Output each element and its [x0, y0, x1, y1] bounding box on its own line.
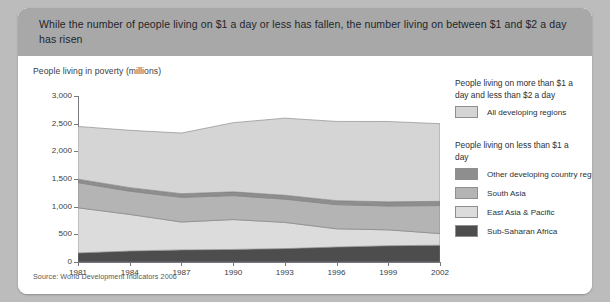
legend-label: Other developing country regions [487, 170, 592, 179]
legend-group-2-title: People living on less than $1 a day [455, 140, 583, 163]
legend-item-south-asia: South Asia [455, 187, 583, 199]
y-tick-label: 3,000 [30, 91, 72, 100]
legend-label: East Asia & Pacific [487, 208, 554, 217]
x-tick [130, 262, 131, 266]
plot-area: 05001,0001,5002,0002,5003,000 1981198419… [30, 82, 450, 272]
x-tick [337, 262, 338, 266]
x-tick [285, 262, 286, 266]
x-axis-line [78, 262, 441, 263]
source-note: Source: World Development Indicators 200… [33, 272, 177, 281]
x-tick-label: 1993 [276, 268, 294, 277]
x-tick [78, 262, 79, 266]
y-tick-label: 0 [30, 257, 72, 266]
legend-label: All developing regions [487, 108, 566, 117]
chart-title: People living in poverty (millions) [33, 66, 161, 76]
x-tick-label: 1996 [328, 268, 346, 277]
x-tick [233, 262, 234, 266]
legend-item-all-developing-regions: All developing regions [455, 106, 583, 118]
screen-background: While the number of people living on $1 … [0, 0, 610, 302]
legend-swatch [455, 225, 478, 237]
legend-item-sub-saharan-africa: Sub-Saharan Africa [455, 225, 583, 237]
legend-spacer [455, 125, 583, 140]
legend-swatch [455, 168, 478, 180]
legend-item-east-asia-pacific: East Asia & Pacific [455, 206, 583, 218]
legend-label: Sub-Saharan Africa [487, 227, 557, 236]
y-tick-label: 2,000 [30, 146, 72, 155]
figure-header: While the number of people living on $1 … [18, 8, 592, 56]
x-tick [181, 262, 182, 266]
y-tick-label: 2,500 [30, 119, 72, 128]
x-tick-label: 1999 [379, 268, 397, 277]
y-tick-label: 500 [30, 229, 72, 238]
legend-swatch [455, 106, 478, 118]
legend-label: South Asia [487, 189, 526, 198]
legend-swatch [455, 187, 478, 199]
y-tick-label: 1,500 [30, 174, 72, 183]
figure-headline: While the number of people living on $1 … [39, 17, 571, 46]
x-tick [440, 262, 441, 266]
stacked-area-plot [78, 96, 440, 262]
figure-panel: While the number of people living on $1 … [18, 8, 592, 294]
chart-legend: People living on more than $1 a day and … [455, 78, 583, 244]
legend-swatch [455, 206, 478, 218]
legend-item-other-developing-country-regions: Other developing country regions [455, 168, 583, 180]
x-tick-label: 2002 [431, 268, 449, 277]
y-tick-label: 1,000 [30, 202, 72, 211]
x-tick-label: 1990 [224, 268, 242, 277]
legend-group-1-title: People living on more than $1 a day and … [455, 78, 583, 101]
area-series-svg [78, 96, 440, 262]
x-tick [388, 262, 389, 266]
figure-body: People living in poverty (millions) 0500… [18, 56, 592, 294]
